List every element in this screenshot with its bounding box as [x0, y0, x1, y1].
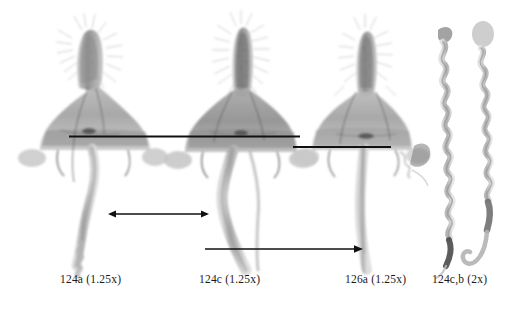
plate-artwork — [0, 0, 517, 309]
caption-124a: 124a (1.25x) — [60, 272, 121, 286]
caption-124cb: 124c,b (2x) — [432, 272, 487, 286]
caption-row: 124a (1.25x) 124c (1.25x) 126a (1.25x) 1… — [0, 272, 517, 294]
specimen-plate: 124a (1.25x) 124c (1.25x) 126a (1.25x) 1… — [0, 0, 517, 309]
caption-124c: 124c (1.25x) — [199, 272, 260, 286]
caption-126a: 126a (1.25x) — [345, 272, 406, 286]
